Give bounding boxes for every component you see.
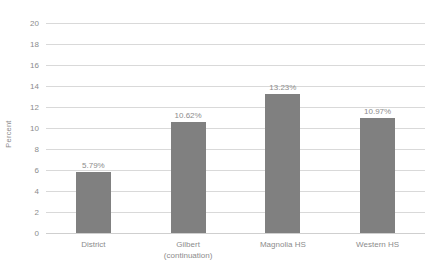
x-axis-category-label: Western HS	[356, 239, 399, 250]
y-axis-tick-label: 8	[35, 145, 39, 154]
x-axis-category-label: District	[81, 239, 105, 250]
bars: 5.79%District10.62%Gilbert(continuation)…	[46, 23, 425, 233]
category-label-line1: Magnolia HS	[260, 240, 306, 249]
y-axis-tick-label: 0	[35, 229, 39, 238]
bar-chart: Percent 20181614121086420 5.79%District1…	[0, 0, 438, 268]
bar[interactable]	[360, 118, 395, 233]
bar-value-label: 10.62%	[175, 111, 202, 120]
bar-group[interactable]: 10.62%Gilbert(continuation)	[171, 23, 206, 233]
x-axis-category-label: Gilbert(continuation)	[164, 239, 212, 261]
y-axis-tick-label: 14	[30, 82, 39, 91]
y-axis-tick-label: 18	[30, 40, 39, 49]
bar[interactable]	[265, 94, 300, 233]
category-label-line2: (continuation)	[164, 250, 212, 261]
bar[interactable]	[171, 122, 206, 234]
bar-value-label: 5.79%	[82, 161, 105, 170]
category-label-line1: Gilbert	[176, 240, 200, 249]
y-axis-tick-label: 12	[30, 103, 39, 112]
y-axis-title: Percent	[0, 0, 16, 268]
y-axis-tick-label: 16	[30, 61, 39, 70]
y-axis-tick-label: 10	[30, 124, 39, 133]
y-axis-tick-label: 2	[35, 208, 39, 217]
bar[interactable]	[76, 172, 111, 233]
category-label-line1: District	[81, 240, 105, 249]
x-axis-category-label: Magnolia HS	[260, 239, 306, 250]
y-axis-tick-label: 4	[35, 187, 39, 196]
plot-area: 20181614121086420 5.79%District10.62%Gil…	[46, 23, 425, 233]
y-axis-tick-label: 6	[35, 166, 39, 175]
bar-group[interactable]: 5.79%District	[76, 23, 111, 233]
y-axis-tick-label: 20	[30, 19, 39, 28]
bar-value-label: 10.97%	[364, 107, 391, 116]
bar-group[interactable]: 10.97%Western HS	[360, 23, 395, 233]
category-label-line1: Western HS	[356, 240, 399, 249]
gridline	[46, 233, 425, 234]
bar-group[interactable]: 13.23%Magnolia HS	[265, 23, 300, 233]
bar-value-label: 13.23%	[269, 83, 296, 92]
